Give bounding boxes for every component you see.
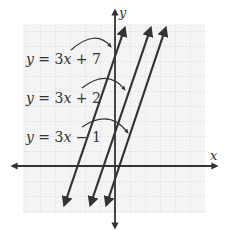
equation-label-2: y = 3x + 2	[25, 90, 101, 106]
equation-label-3: y = 3x − 1	[25, 129, 101, 145]
equation-label-1: y = 3x + 7	[25, 51, 101, 67]
x-axis-label: x	[210, 148, 218, 163]
coordinate-plane: x y y = 3x + 7 y = 3x + 2 y = 3x − 1	[0, 0, 229, 231]
y-axis-label: y	[118, 5, 127, 20]
